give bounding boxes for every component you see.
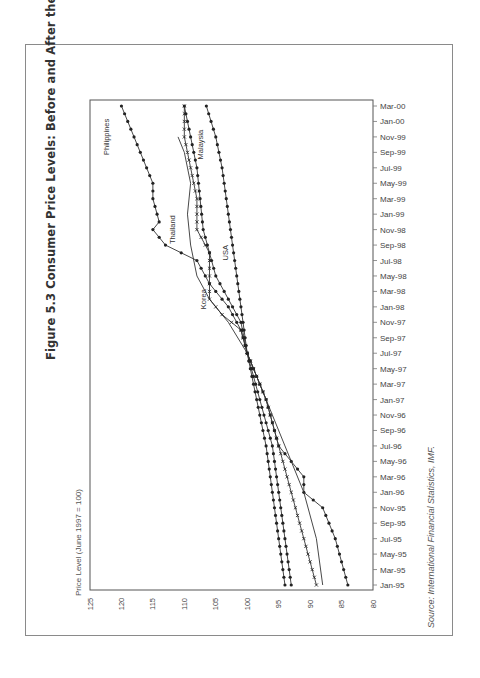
date-tick-label: Mar-97: [380, 380, 406, 389]
date-tick-label: Jan-97: [380, 396, 405, 405]
date-tick-label: Sep-99: [380, 148, 406, 157]
date-tick-label: Jan-00: [380, 117, 405, 126]
plot-area: [90, 100, 373, 590]
date-tick-label: Mar-96: [380, 473, 406, 482]
line-chart: 12512011511010510095908580Jan-95Mar-95Ma…: [0, 0, 480, 678]
date-tick-label: Jan-95: [380, 581, 405, 590]
date-tick-label: Nov-98: [380, 226, 406, 235]
series-label-usa: USA: [221, 245, 230, 260]
date-tick-label: Mar-99: [380, 195, 406, 204]
date-tick-label: May-96: [380, 457, 407, 466]
date-tick-label: Mar-00: [380, 102, 406, 111]
value-tick-label: 85: [337, 600, 346, 608]
value-tick-label: 110: [180, 598, 189, 610]
date-tick-label: Mar-98: [380, 287, 406, 296]
date-tick-label: Jul-95: [380, 535, 402, 544]
value-tick-label: 90: [306, 600, 315, 608]
date-tick-label: Mar-95: [380, 566, 406, 575]
value-tick-label: 115: [148, 598, 157, 610]
value-tick-label: 120: [117, 598, 126, 611]
date-tick-label: May-95: [380, 550, 407, 559]
date-tick-label: Jan-98: [380, 303, 405, 312]
series-label-thailand: Thailand: [168, 215, 177, 244]
date-tick-label: Sep-96: [380, 426, 406, 435]
date-tick-label: Nov-99: [380, 133, 406, 142]
date-tick-label: Jan-99: [380, 210, 405, 219]
series-label-korea: Korea: [199, 288, 208, 309]
series-korea: [184, 106, 316, 585]
series-label-philippines: Philippines: [102, 119, 111, 156]
value-tick-label: 95: [274, 600, 283, 608]
date-tick-label: Jul-98: [380, 257, 402, 266]
date-tick-label: Jul-97: [380, 349, 402, 358]
date-tick-label: Nov-96: [380, 411, 406, 420]
date-tick-label: Sep-98: [380, 241, 406, 250]
value-tick-label: 100: [243, 598, 252, 611]
date-tick-label: Sep-97: [380, 334, 406, 343]
date-tick-label: Jul-96: [380, 442, 402, 451]
series-label-malaysia: Malaysia: [196, 129, 205, 159]
date-tick-label: Jul-99: [380, 164, 402, 173]
date-tick-label: Jan-96: [380, 488, 405, 497]
date-tick-label: Nov-97: [380, 318, 406, 327]
value-tick-label: 80: [369, 600, 378, 608]
date-tick-label: Nov-95: [380, 504, 406, 513]
date-tick-label: May-98: [380, 272, 407, 281]
series-philippines: [121, 106, 347, 585]
date-tick-label: Sep-95: [380, 519, 406, 528]
value-tick-label: 105: [211, 598, 220, 611]
date-tick-label: May-97: [380, 365, 407, 374]
date-tick-label: May-99: [380, 179, 407, 188]
value-tick-label: 125: [86, 598, 95, 611]
